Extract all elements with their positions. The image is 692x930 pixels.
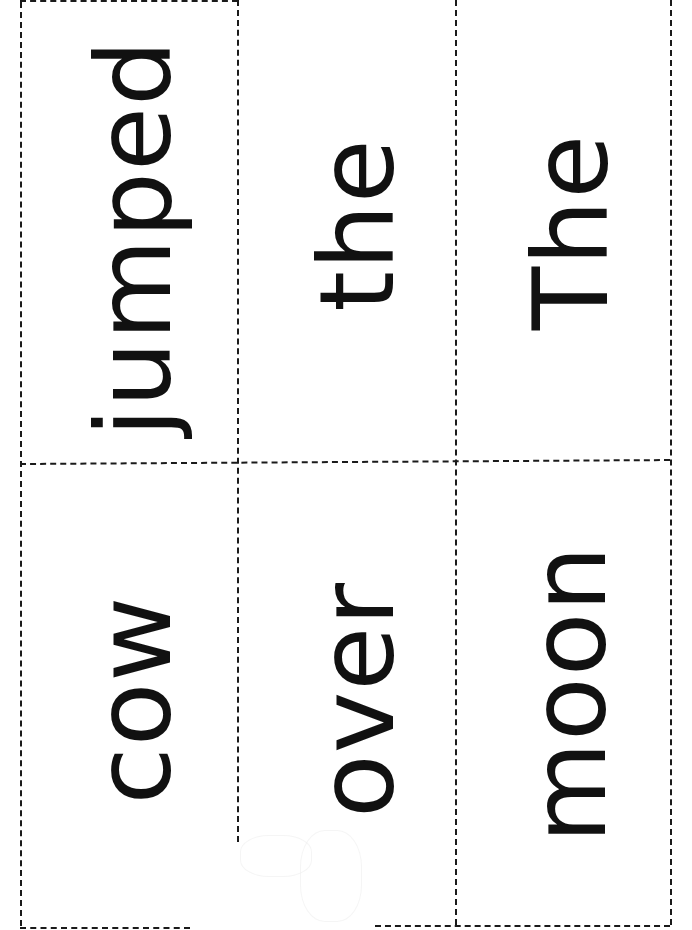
card-word: over: [305, 582, 409, 818]
card-word: cow: [83, 596, 187, 805]
word-card-the-capital: The: [457, 2, 670, 463]
word-card-over: over: [239, 465, 455, 927]
card-word: The: [520, 133, 624, 329]
card-word: moon: [518, 545, 622, 843]
cut-line-bottom-left: [20, 927, 190, 929]
cut-line-right: [670, 0, 672, 925]
card-word: the: [305, 138, 409, 312]
word-card-jumped: jumped: [22, 2, 237, 463]
word-card-cow: cow: [22, 465, 237, 927]
card-word: jumped: [83, 38, 187, 436]
word-card-worksheet: jumped the The cow over moon: [0, 0, 692, 930]
word-card-moon: moon: [457, 465, 670, 925]
word-card-the-lower: the: [239, 2, 455, 463]
